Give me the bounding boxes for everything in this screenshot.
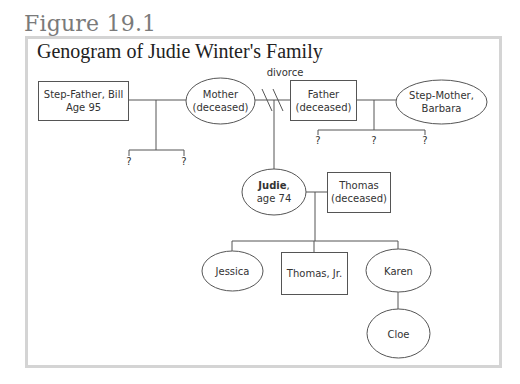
svg-text:Karen: Karen <box>384 266 413 277</box>
unknown-child-marker: ? <box>315 135 320 146</box>
svg-text:Mother: Mother <box>203 89 239 100</box>
unknown-child-marker: ? <box>422 135 427 146</box>
svg-text:Jessica: Jessica <box>215 266 250 277</box>
female-circle-icon <box>396 80 487 124</box>
svg-text:Age 95: Age 95 <box>66 102 101 113</box>
svg-text:Father: Father <box>308 89 340 100</box>
unknown-child-marker: ? <box>371 135 376 146</box>
svg-text:Thomas: Thomas <box>338 180 379 191</box>
male-square-icon <box>291 81 357 121</box>
divorce-label: divorce <box>267 67 304 78</box>
judie-name: Judie <box>257 180 286 191</box>
svg-text:Thomas, Jr.: Thomas, Jr. <box>286 268 342 279</box>
svg-text:Cloe: Cloe <box>387 329 409 340</box>
unknown-child-marker: ? <box>126 156 131 167</box>
person-thomas: Thomas (deceased) <box>328 173 391 213</box>
person-step-father: Step-Father, Bill Age 95 <box>39 82 129 121</box>
female-circle-icon <box>186 78 255 124</box>
person-cloe: Cloe <box>367 309 430 358</box>
person-thomas-jr: Thomas, Jr. <box>282 253 348 295</box>
svg-text:(deceased): (deceased) <box>193 102 249 113</box>
svg-text:(deceased): (deceased) <box>296 102 352 113</box>
svg-text:Judie,: Judie, <box>257 180 289 191</box>
female-circle-icon <box>242 169 306 215</box>
svg-text:Step-Mother,: Step-Mother, <box>409 90 474 101</box>
person-jessica: Jessica <box>202 251 263 291</box>
person-karen: Karen <box>366 249 431 292</box>
person-step-mother: Step-Mother, Barbara <box>396 80 487 124</box>
person-father: Father (deceased) <box>291 81 357 121</box>
unknown-child-marker: ? <box>181 156 186 167</box>
svg-text:Barbara: Barbara <box>422 103 462 114</box>
genogram-diagram: Step-Father, Bill Age 95 Mother (decease… <box>0 0 520 384</box>
male-square-icon <box>39 82 129 121</box>
svg-text:(deceased): (deceased) <box>331 193 387 204</box>
person-judie: Judie, age 74 <box>242 169 306 215</box>
svg-text:age 74: age 74 <box>257 193 292 204</box>
person-mother: Mother (deceased) <box>186 78 255 124</box>
svg-text:Step-Father, Bill: Step-Father, Bill <box>44 89 123 100</box>
